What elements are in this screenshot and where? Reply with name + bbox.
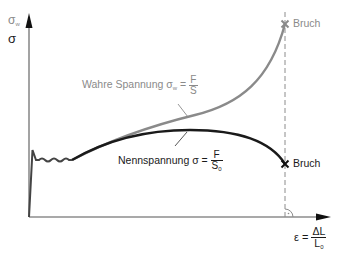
y-axis-label-stress: σ [8,32,16,45]
stress-strain-diagram: σw σ Wahre Spannung σw = F S Nennspannun… [0,0,343,262]
true-stress-leader-line [178,104,188,117]
fracture-top-label: Bruch [293,18,320,29]
x-axis-label-strain: ε = ΔL L0 [294,226,326,250]
diagram-graphics [0,0,343,262]
fracture-bottom-label: Bruch [293,158,320,169]
y-axis-label-true-stress: σw [8,14,20,27]
elastic-region-curve [29,150,72,217]
nominal-stress-leader-line [175,132,187,146]
x-axis-arrow-icon [316,214,331,221]
nominal-stress-label: Nennspannung σ = F S0 [118,150,223,172]
y-axis-arrow-icon [26,13,33,28]
true-stress-label: Wahre Spannung σw = F S [82,75,198,96]
